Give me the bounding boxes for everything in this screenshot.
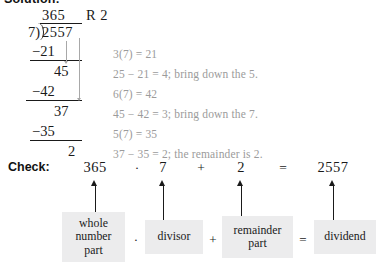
connector-arrow-divisor [157,180,169,222]
arrow-shaft [333,185,334,222]
remainder-label: R 2 [86,8,108,23]
division-rule-1 [30,60,82,61]
term-box-operator-equals: = [296,232,310,248]
solution-heading: Solution: [4,0,60,6]
check-operator-plus: + [190,160,212,176]
division-rule-3 [30,140,82,141]
term-box-operator-plus: + [206,232,220,248]
check-label: Check: [8,160,50,174]
bring-down-arrow-2 [79,38,80,100]
annotation-column: 3(7) = 21 25 − 21 = 4; bring down the 5.… [113,44,368,164]
annotation-line-3: 6(7) = 42 [113,84,368,104]
term-box-operator-times: · [129,232,143,248]
term-box-remainder-part: remainderpart [222,216,293,258]
quotient-value: 365 [42,8,65,23]
division-rule-2 [26,100,82,101]
term-box-whole-number-part: wholenumberpart [62,212,125,262]
connector-arrow-dividend [327,180,339,222]
long-division-work: 365 R 2 7) 2557 −21 45 −42 37 −35 2 [0,8,110,153]
check-row: Check: 365 · 7 + 2 = 2557 [0,158,377,180]
subtract-step-2: −42 [32,84,55,99]
annotation-line-1: 3(7) = 21 [113,44,368,64]
final-remainder: 2 [68,144,75,159]
term-box-divisor: divisor [145,220,203,254]
bring-down-arrowhead-2 [77,98,81,101]
bring-down-arrow-1 [66,41,67,63]
check-operator-times: · [126,160,148,176]
check-term-divisor: 7 [152,159,174,176]
annotation-line-5: 5(7) = 35 [113,124,368,144]
partial-remainder-1: 45 [54,64,69,79]
check-term-dividend: 2557 [310,159,356,176]
arrow-shaft [163,185,164,222]
check-term-remainder: 2 [230,159,252,176]
check-term-whole-number: 365 [72,159,118,176]
annotation-line-2: 25 − 21 = 4; bring down the 5. [113,64,368,84]
check-operator-equals: = [272,160,294,176]
bring-down-arrowhead-1 [64,61,68,64]
subtract-step-3: −35 [32,124,55,139]
partial-remainder-2: 37 [54,104,69,119]
dividend-value: 2557 [42,25,73,40]
annotation-line-4: 45 − 42 = 3; bring down the 7. [113,104,368,124]
subtract-step-1: −21 [32,44,55,59]
term-box-dividend: dividend [314,220,376,254]
